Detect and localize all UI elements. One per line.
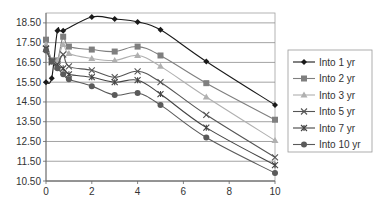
square-marker-icon: [60, 34, 66, 40]
legend-label: Into 3 yr: [319, 90, 356, 101]
square-marker-icon: [158, 52, 164, 58]
y-tick-label: 12.50: [16, 136, 41, 147]
legend: Into 1 yrInto 2 yrInto 3 yrInto 5 yrInto…: [288, 50, 372, 152]
y-tick-label: 18.50: [16, 17, 41, 28]
circle-marker-icon: [43, 48, 49, 54]
circle-marker-icon: [49, 58, 55, 64]
y-tick-label: 11.50: [17, 156, 42, 167]
legend-label: Into 1 yr: [319, 57, 356, 68]
y-axis: 10.5011.5012.5013.5014.5015.5016.5017.50…: [16, 13, 46, 187]
circle-marker-icon: [60, 71, 66, 77]
legend-label: Into 5 yr: [319, 106, 356, 117]
x-tick-label: 2: [89, 186, 95, 197]
y-tick-label: 14.50: [16, 96, 41, 107]
circle-marker-icon: [272, 170, 278, 176]
square-marker-icon: [203, 80, 209, 86]
y-tick-label: 17.50: [16, 37, 41, 48]
y-tick-label: 15.50: [16, 77, 41, 88]
legend-label: Into 10 yr: [319, 139, 361, 150]
circle-marker-icon: [54, 65, 60, 71]
circle-marker-icon: [112, 92, 118, 98]
circle-marker-icon: [66, 76, 72, 82]
legend-label: Into 2 yr: [319, 73, 356, 84]
yield-curve-chart: 10.5011.5012.5013.5014.5015.5016.5017.50…: [0, 0, 376, 207]
x-tick-label: 0: [43, 186, 49, 197]
square-marker-icon: [301, 76, 307, 82]
square-marker-icon: [66, 44, 72, 50]
x-tick-label: 10: [269, 186, 281, 197]
circle-marker-icon: [158, 102, 164, 108]
y-tick-label: 16.50: [16, 57, 41, 68]
x-tick-label: 6: [181, 186, 187, 197]
legend-label: Into 7 yr: [319, 123, 356, 134]
circle-marker-icon: [203, 135, 209, 141]
square-marker-icon: [112, 49, 118, 55]
circle-marker-icon: [135, 90, 141, 96]
square-marker-icon: [135, 44, 141, 50]
square-marker-icon: [272, 117, 278, 123]
y-tick-label: 10.50: [16, 176, 41, 187]
y-tick-label: 13.50: [16, 116, 41, 127]
circle-marker-icon: [301, 142, 307, 148]
x-tick-label: 4: [135, 186, 141, 197]
square-marker-icon: [89, 47, 95, 53]
x-axis: 0246810: [43, 181, 281, 197]
circle-marker-icon: [89, 83, 95, 89]
x-tick-label: 8: [226, 186, 232, 197]
